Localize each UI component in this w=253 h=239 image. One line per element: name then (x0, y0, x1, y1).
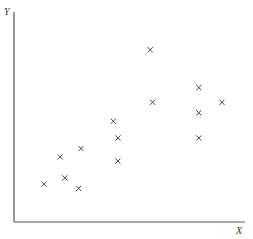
data-points (41, 47, 224, 191)
x-marker (78, 146, 83, 151)
x-marker (196, 85, 201, 90)
x-marker (196, 110, 201, 115)
x-marker (115, 135, 120, 140)
x-marker (150, 100, 155, 105)
x-marker (148, 47, 153, 52)
x-marker (196, 135, 201, 140)
x-marker (115, 159, 120, 164)
x-marker (111, 119, 116, 124)
x-marker (58, 154, 63, 159)
x-marker (62, 175, 67, 180)
x-marker (76, 186, 81, 191)
scatter-plot (0, 0, 253, 239)
x-axis-label: X (236, 225, 242, 236)
x-marker (41, 182, 46, 187)
x-marker (219, 100, 224, 105)
y-axis-label: Y (4, 6, 10, 17)
